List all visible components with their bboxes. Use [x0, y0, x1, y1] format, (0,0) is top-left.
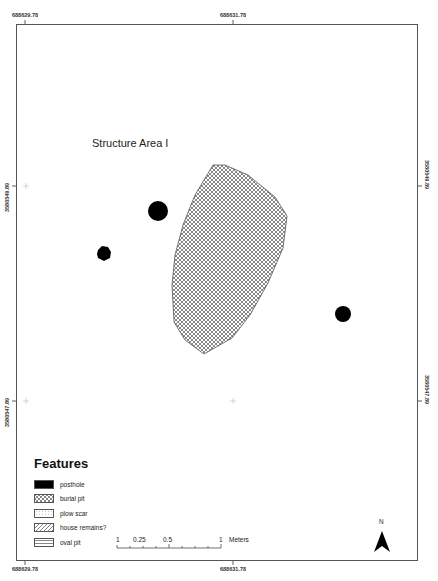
posthole-feature[interactable]: [97, 246, 111, 261]
coord-top-left: 688629.78: [12, 12, 38, 18]
scale-label-05: 0.5: [163, 536, 172, 543]
crosshatch-swatch-icon: [34, 494, 54, 503]
scale-unit: Meters: [229, 536, 249, 543]
scale-label-0: 1: [116, 536, 120, 543]
posthole-feature[interactable]: [148, 201, 168, 221]
coord-bottom-left: 688629.78: [12, 566, 38, 572]
dotted-swatch-icon: [34, 509, 54, 518]
burial-pit-feature[interactable]: [172, 165, 287, 354]
posthole-swatch-icon: [34, 480, 54, 489]
legend-item-house-remains: house remains?: [34, 521, 106, 536]
coord-left-lower: 3580547.89: [4, 398, 10, 427]
coord-left-upper: 3580549.89: [4, 183, 10, 212]
legend-item-plow-scar: plow scar: [34, 506, 106, 521]
coord-bottom-center: 688631.78: [220, 566, 246, 572]
posthole-feature[interactable]: [335, 306, 351, 322]
scale-label-025: 0.25: [133, 536, 146, 543]
scale-label-1: 1: [219, 536, 223, 543]
legend-item-burial-pit: burial pit: [34, 492, 106, 507]
north-label: N: [379, 518, 384, 525]
coord-right-upper: 3580549.89: [424, 160, 430, 189]
legend-item-posthole: posthole: [34, 477, 106, 492]
legend: Features posthole burial pit plow scar h…: [34, 456, 106, 550]
scale-bar: [117, 544, 221, 548]
legend-item-oval-pit: oval pit: [34, 535, 106, 550]
coord-right-lower: 3580547.89: [424, 375, 430, 404]
map-title: Structure Area I: [92, 137, 168, 149]
north-arrow-icon: [374, 531, 390, 552]
coord-top-center: 688631.78: [220, 12, 246, 18]
horizontal-swatch-icon: [34, 538, 54, 547]
legend-title: Features: [34, 456, 106, 471]
diagonal-swatch-icon: [34, 523, 54, 532]
